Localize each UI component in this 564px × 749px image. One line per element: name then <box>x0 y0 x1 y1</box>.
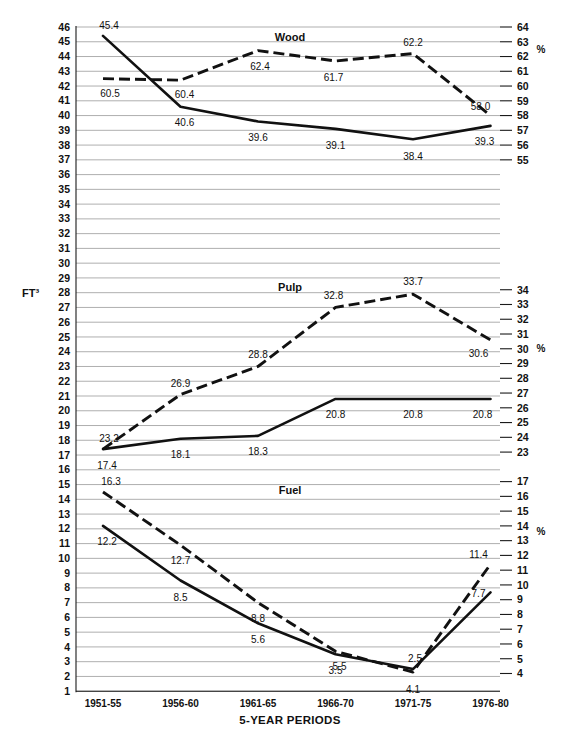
left-tick-label: 44 <box>58 50 70 62</box>
left-tick-label: 18 <box>58 434 70 446</box>
x-tick-label: 1976-80 <box>472 698 509 709</box>
x-tick-label: 1961-65 <box>240 698 277 709</box>
point-label-percent: 12.7 <box>171 555 191 566</box>
right-tick-label: 4 <box>517 667 523 679</box>
axis-lines <box>76 26 500 692</box>
point-label-cuft: 2.5 <box>408 653 422 664</box>
left-tick-label: 33 <box>58 212 70 224</box>
right-tick-label: 25 <box>517 416 529 428</box>
left-tick-label: 16 <box>58 463 70 475</box>
left-tick-label: 36 <box>58 168 70 180</box>
x-axis-tick-labels: 1951-551956-601961-651966-701971-751976-… <box>85 698 510 709</box>
point-label-percent: 11.4 <box>469 549 488 560</box>
left-tick-label: 41 <box>58 94 70 106</box>
right-axis-percent-symbol: % <box>537 343 546 354</box>
x-tick-label: 1951-55 <box>85 698 122 709</box>
left-tick-label: 8 <box>64 581 70 593</box>
multi-panel-line-chart: 4645444342414039383736353433323130292827… <box>0 0 564 749</box>
left-tick-label: 30 <box>58 257 70 269</box>
left-tick-label: 45 <box>58 35 70 47</box>
left-tick-label: 37 <box>58 153 70 165</box>
x-tick-label: 1956-60 <box>162 698 199 709</box>
point-label-percent: 61.7 <box>324 72 344 83</box>
left-tick-label: 1 <box>64 685 70 697</box>
left-tick-label: 20 <box>58 404 70 416</box>
point-label-percent: 33.7 <box>403 276 423 287</box>
left-tick-label: 35 <box>58 183 70 195</box>
left-tick-label: 12 <box>58 522 70 534</box>
right-tick-label: 6 <box>517 638 523 650</box>
x-tick-label: 1966-70 <box>317 698 354 709</box>
point-label-percent: 23.2 <box>99 433 119 444</box>
right-tick-label: 33 <box>517 298 529 310</box>
panel-title-fuel: Fuel <box>279 484 302 496</box>
series-line-cuft-fuel <box>103 526 491 669</box>
left-tick-label: 15 <box>58 478 70 490</box>
panel-title-pulp: Pulp <box>278 281 302 293</box>
right-tick-label: 8 <box>517 608 523 620</box>
point-label-cuft: 5.6 <box>251 634 265 645</box>
point-label-percent: 62.4 <box>250 61 270 72</box>
chart-container: 4645444342414039383736353433323130292827… <box>0 0 564 749</box>
left-tick-label: 4 <box>64 641 70 653</box>
point-label-cuft: 12.2 <box>97 536 117 547</box>
left-tick-label: 6 <box>64 611 70 623</box>
left-axis-ticks: 4645444342414039383736353433323130292827… <box>58 21 70 697</box>
right-tick-label: 23 <box>517 446 529 458</box>
series-line-percent-fuel <box>103 492 491 672</box>
left-tick-label: 14 <box>58 493 70 505</box>
right-tick-label: 14 <box>517 520 529 532</box>
series-line-percent-pulp <box>103 294 491 449</box>
point-label-percent: 8.8 <box>251 613 265 624</box>
left-tick-label: 38 <box>58 139 70 151</box>
point-label-percent: 28.8 <box>248 349 268 360</box>
right-tick-label: 7 <box>517 623 523 635</box>
point-label-percent: 60.5 <box>100 88 120 99</box>
left-tick-label: 23 <box>58 360 70 372</box>
data-series <box>103 36 491 672</box>
point-label-cuft: 7.7 <box>472 588 486 599</box>
right-tick-label: 15 <box>517 505 529 517</box>
left-tick-label: 5 <box>64 626 70 638</box>
right-tick-label: 5 <box>517 653 523 665</box>
left-tick-label: 34 <box>58 198 70 210</box>
point-label-percent: 58.0 <box>471 101 491 112</box>
right-axis-percent-symbol: % <box>537 526 546 537</box>
left-tick-label: 19 <box>58 419 70 431</box>
panel-title-wood: Wood <box>275 31 305 43</box>
right-tick-label: 27 <box>517 387 529 399</box>
left-tick-label: 42 <box>58 80 70 92</box>
left-tick-label: 26 <box>58 316 70 328</box>
left-tick-label: 7 <box>64 596 70 608</box>
point-label-cuft: 39.3 <box>475 136 495 147</box>
right-tick-label: 56 <box>517 139 529 151</box>
right-tick-label: 57 <box>517 124 529 136</box>
point-label-percent: 30.6 <box>469 348 489 359</box>
point-label-cuft: 39.1 <box>326 140 346 151</box>
left-tick-label: 32 <box>58 227 70 239</box>
left-tick-label: 9 <box>64 567 70 579</box>
point-label-cuft: 20.8 <box>473 409 493 420</box>
right-tick-label: 24 <box>517 431 529 443</box>
right-axis-percent-symbol: % <box>537 44 546 55</box>
left-tick-label: 40 <box>58 109 70 121</box>
right-tick-label: 9 <box>517 593 523 605</box>
left-tick-label: 27 <box>58 301 70 313</box>
x-tick-label: 1971-75 <box>395 698 432 709</box>
left-tick-label: 13 <box>58 508 70 520</box>
left-tick-label: 43 <box>58 65 70 77</box>
point-label-cuft: 38.4 <box>403 151 423 162</box>
point-label-cuft: 18.1 <box>171 449 191 460</box>
left-tick-label: 17 <box>58 449 70 461</box>
left-tick-label: 2 <box>64 670 70 682</box>
right-tick-label: 58 <box>517 109 529 121</box>
right-tick-label: 55 <box>517 154 529 166</box>
left-tick-label: 29 <box>58 272 70 284</box>
series-line-cuft-wood <box>103 36 491 139</box>
series-line-percent-wood <box>103 51 491 116</box>
right-tick-label: 30 <box>517 343 529 355</box>
left-tick-label: 46 <box>58 21 70 33</box>
left-axis-title: FT³ <box>22 287 39 299</box>
point-label-cuft: 39.6 <box>248 132 268 143</box>
right-tick-label: 11 <box>517 564 528 576</box>
